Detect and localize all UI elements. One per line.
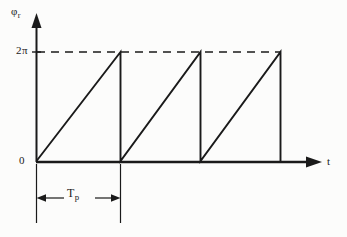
- origin-label: 0: [19, 155, 25, 166]
- y-axis-label-subscript: r: [17, 11, 20, 20]
- x-axis-label: t: [327, 156, 330, 167]
- period-label-subscript: p: [74, 192, 79, 202]
- figure-background: [0, 0, 347, 237]
- y-axis-label: φr: [11, 6, 21, 20]
- y-axis-tick-label-2pi: 2π: [16, 45, 28, 56]
- period-label: Tp: [67, 187, 79, 202]
- sawtooth-waveform-figure: φr 2π 0 t Tp: [0, 0, 347, 237]
- figure-canvas: [0, 0, 347, 237]
